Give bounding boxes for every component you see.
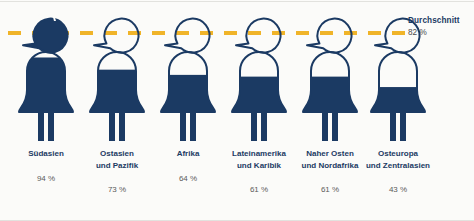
category-value: 73 %: [74, 185, 160, 194]
figure-body-fill: [358, 87, 438, 114]
figure-legs: [390, 112, 406, 141]
figure-body-fill: [148, 75, 228, 114]
figure-legs: [180, 112, 196, 141]
figure-body-fill: [6, 57, 86, 114]
figure-body-fill: [290, 77, 370, 114]
figure-naher-osten-und-nordafrika: [290, 19, 370, 141]
category-value: 43 %: [355, 185, 441, 194]
figure-legs: [38, 112, 54, 141]
category-figure-osteuropa-und-zentralasien: Osteuropa und Zentralasien43 %: [355, 148, 441, 194]
average-label: Durchschnitt: [408, 16, 474, 26]
category-name: Osteuropa und Zentralasien: [355, 148, 441, 171]
figure-body-fill: [219, 77, 299, 114]
figure-legs: [251, 112, 267, 141]
average-value: 82 %: [408, 28, 474, 38]
figure-head: [307, 19, 351, 53]
figure-head: [165, 19, 209, 53]
pictogram-chart: Durchschnitt 82 % Südasien94 %Ostasien u…: [0, 0, 474, 221]
figure-head: [94, 19, 138, 53]
figure-legs: [322, 112, 338, 141]
figure-ostasien-und-pazifik: [77, 19, 157, 141]
figure-head: [236, 19, 280, 53]
figure-legs: [109, 112, 125, 141]
category-labels-row: Südasien94 %Ostasien und Pazifik73 %Afri…: [0, 148, 474, 221]
figure-afrika: [148, 19, 228, 141]
figure-body-fill: [77, 70, 157, 114]
divider-bottom: [0, 220, 474, 221]
average-legend: Durchschnitt 82 %: [408, 16, 474, 39]
figure-lateinamerika-und-karibik: [219, 19, 299, 141]
figure-head: [23, 19, 67, 53]
